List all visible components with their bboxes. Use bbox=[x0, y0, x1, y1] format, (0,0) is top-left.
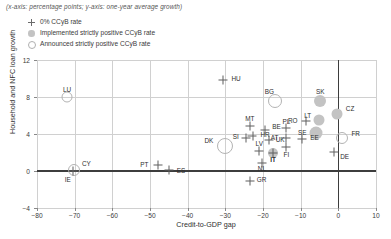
data-point-label-lu: LU bbox=[63, 87, 71, 93]
gridline-horizontal bbox=[37, 60, 376, 61]
data-point-label-ro: RO bbox=[288, 118, 298, 124]
data-point-fr-open bbox=[336, 132, 348, 144]
data-point-label-ie: IE bbox=[65, 177, 71, 183]
data-point-ro-plus bbox=[301, 117, 310, 126]
data-point-lt-filled bbox=[314, 115, 325, 126]
legend-marker-open-icon bbox=[26, 39, 37, 49]
y-tick-label: 8 bbox=[26, 94, 30, 101]
data-point-hu-plus bbox=[219, 76, 228, 85]
legend-label: 0% CCyB rate bbox=[40, 17, 82, 27]
data-point-label-ee: EE bbox=[310, 135, 319, 141]
data-point-gr-plus bbox=[245, 177, 254, 186]
y-tick bbox=[34, 60, 37, 61]
x-tick-label: −30 bbox=[220, 212, 231, 219]
data-point-label-cz: CZ bbox=[346, 106, 355, 112]
x-tick bbox=[150, 208, 151, 211]
y-tick-label: −4 bbox=[22, 205, 30, 212]
legend-label: Announced strictly positive CCyB rate bbox=[40, 39, 150, 49]
x-tick bbox=[376, 208, 377, 211]
x-tick-label: −40 bbox=[182, 212, 193, 219]
y-axis-title: Household and NFC loan growth bbox=[8, 30, 17, 134]
data-point-label-si: SI bbox=[233, 134, 239, 140]
scatter-chart-figure: (x-axis: percentage points; y-axis: one-… bbox=[0, 0, 391, 239]
data-point-at-plus bbox=[282, 133, 291, 142]
x-tick bbox=[37, 208, 38, 211]
data-point-label-bg: BG bbox=[265, 89, 274, 95]
data-point-label-cy: CY bbox=[82, 161, 91, 167]
data-point-bg-open bbox=[268, 94, 282, 108]
data-point-pt-plus bbox=[153, 161, 162, 170]
data-point-label-at: AT bbox=[271, 135, 279, 141]
x-axis-title: Credit-to-GDP gap bbox=[176, 220, 235, 229]
x-tick bbox=[188, 208, 189, 211]
x-tick-label: −80 bbox=[31, 212, 42, 219]
x-tick-label: 0 bbox=[336, 212, 340, 219]
x-tick-label: 10 bbox=[372, 212, 379, 219]
data-point-label-sk: SK bbox=[316, 89, 325, 95]
data-point-be-plus bbox=[261, 126, 270, 135]
data-point-label-gr: GR bbox=[257, 177, 267, 183]
legend-item-open: Announced strictly positive CCyB rate bbox=[26, 39, 155, 49]
data-point-label-fr: FR bbox=[351, 131, 360, 137]
x-tick bbox=[301, 208, 302, 211]
data-point-dk-open bbox=[217, 138, 233, 154]
x-tick-label: −20 bbox=[257, 212, 268, 219]
data-point-label-lv: LV bbox=[256, 141, 263, 147]
plot-area: −80−70−60−50−40−30−20−10010−404812 LUCYD… bbox=[37, 60, 376, 208]
data-point-hr-plus bbox=[248, 131, 257, 140]
data-point-cz-filled bbox=[331, 108, 342, 119]
x-tick bbox=[75, 208, 76, 211]
data-point-de-plus bbox=[330, 147, 339, 156]
axis-units-note: (x-axis: percentage points; y-axis: one-… bbox=[6, 3, 182, 10]
y-tick-label: 0 bbox=[26, 168, 30, 175]
legend-item-filled: Implemented strictly positive CCyB rate bbox=[26, 28, 155, 38]
y-tick bbox=[34, 134, 37, 135]
x-tick-label: −70 bbox=[69, 212, 80, 219]
data-point-es-plus bbox=[164, 166, 173, 175]
legend-label: Implemented strictly positive CCyB rate bbox=[40, 28, 155, 38]
x-tick bbox=[338, 208, 339, 211]
data-point-label-dk: DK bbox=[204, 138, 213, 144]
data-point-label-nl: NL bbox=[258, 166, 266, 172]
data-point-label-es: ES bbox=[177, 168, 186, 174]
y-tick-label: 4 bbox=[26, 131, 30, 138]
legend-marker-plus-icon bbox=[26, 17, 37, 27]
data-point-label-fi: FI bbox=[284, 152, 290, 158]
data-point-label-mt: MT bbox=[245, 116, 254, 122]
data-point-label-de: DE bbox=[340, 154, 349, 160]
chart-legend: 0% CCyB rateImplemented strictly positiv… bbox=[26, 17, 155, 50]
data-point-label-be: BE bbox=[272, 124, 281, 130]
data-point-label-hu: HU bbox=[231, 76, 240, 82]
x-tick-label: −10 bbox=[295, 212, 306, 219]
gridline-horizontal bbox=[37, 208, 376, 209]
data-point-sk-filled bbox=[314, 95, 326, 107]
legend-marker-filled-icon bbox=[26, 28, 37, 38]
x-tick bbox=[263, 208, 264, 211]
data-point-ie-plus bbox=[68, 167, 77, 176]
x-tick-label: −60 bbox=[107, 212, 118, 219]
legend-item-plus: 0% CCyB rate bbox=[26, 17, 155, 27]
data-point-ee-plus bbox=[298, 134, 307, 143]
x-tick bbox=[225, 208, 226, 211]
gridline-horizontal bbox=[37, 134, 376, 135]
data-point-label-it: IT bbox=[270, 157, 276, 163]
data-point-label-pt: PT bbox=[140, 162, 148, 168]
y-tick bbox=[34, 171, 37, 172]
zero-line-horizontal bbox=[37, 170, 376, 172]
y-tick-label: 12 bbox=[23, 57, 30, 64]
y-tick bbox=[34, 97, 37, 98]
gridline-vertical bbox=[376, 60, 377, 208]
x-tick bbox=[112, 208, 113, 211]
x-tick-label: −50 bbox=[144, 212, 155, 219]
y-tick bbox=[34, 208, 37, 209]
